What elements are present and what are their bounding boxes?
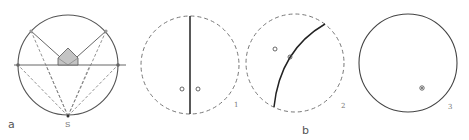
subpanel-2-number: 2 <box>341 102 345 110</box>
pole-s-label: S <box>65 120 70 129</box>
figure-canvas: a S 1 2 b 3 <box>0 0 469 140</box>
panel-b3: 3 <box>359 14 457 112</box>
solid-circle <box>359 14 457 112</box>
great-circle-arc <box>274 24 325 107</box>
panel-b-label: b <box>302 124 309 137</box>
panel-a: a S <box>8 15 126 131</box>
projection-lines <box>18 31 118 116</box>
subpanel-3-number: 3 <box>448 103 452 111</box>
panel-b2: 2 b <box>246 14 345 137</box>
panel-a-label: a <box>8 118 15 131</box>
panel-b1: 1 <box>141 16 239 114</box>
shaded-region <box>58 48 78 65</box>
subpanel-1-number: 1 <box>234 101 238 109</box>
dashed-circle <box>246 14 344 112</box>
